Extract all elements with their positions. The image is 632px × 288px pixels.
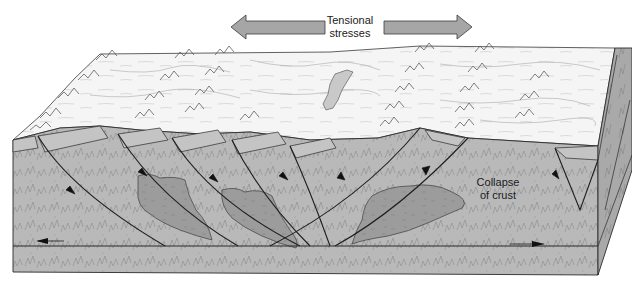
collapse-of-crust-line2: of crust <box>463 189 533 202</box>
collapse-of-crust-line1: Collapse <box>463 176 533 189</box>
tensional-stresses-line1: Tensional <box>300 14 400 27</box>
tensional-stresses-line2: stresses <box>300 27 400 40</box>
block-diagram <box>0 0 632 288</box>
tensional-stresses-label: Tensional stresses <box>300 14 400 40</box>
collapse-of-crust-label: Collapse of crust <box>463 176 533 202</box>
